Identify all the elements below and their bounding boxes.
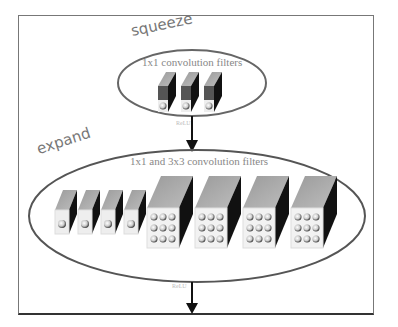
- expand-title: 1x1 and 3x3 convolution filters: [130, 155, 268, 167]
- expand-filters-1x1: [55, 190, 146, 234]
- expand-filter-1x1: [101, 190, 123, 234]
- activation-label: ReLU: [176, 120, 191, 126]
- squeeze-filter-1x1: [158, 72, 176, 112]
- expand-filter-3x3: [243, 176, 289, 248]
- squeeze-filter-1x1: [204, 72, 222, 112]
- expand-filter-3x3: [291, 176, 337, 248]
- expand-filter-1x1: [78, 190, 100, 234]
- expand-filter-1x1: [124, 190, 146, 234]
- expand-filters-3x3: [147, 176, 337, 248]
- expand-filter-1x1: [55, 190, 77, 234]
- expand-filter-3x3: [147, 176, 193, 248]
- activation-label: ReLU: [172, 283, 187, 289]
- expand-filter-3x3: [195, 176, 241, 248]
- arrow-output: [186, 282, 198, 314]
- squeeze-filter-1x1: [181, 72, 199, 112]
- squeeze-title: 1x1 convolution filters: [142, 56, 242, 68]
- squeeze-filters: [158, 72, 222, 112]
